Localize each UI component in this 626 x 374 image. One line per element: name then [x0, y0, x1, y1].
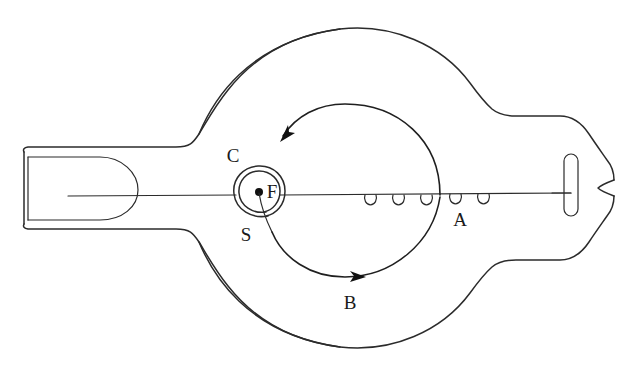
anode-loop-3 [420, 195, 432, 205]
beam-arrow-head-top [280, 125, 295, 142]
anode-loop-2 [393, 195, 405, 205]
bulb-circle-lower [199, 242, 340, 347]
anode-loops [364, 194, 489, 205]
tube-left-inner-wall [28, 157, 138, 220]
end-bulb-tip [598, 180, 614, 196]
axis-line-right [280, 193, 571, 195]
label-s: S [241, 224, 252, 245]
label-f: F [267, 181, 278, 202]
circulating-beam-path [272, 104, 440, 282]
tube-outline-upper [24, 28, 615, 180]
bulb-circle-upper [199, 29, 340, 134]
axis-line-left [68, 195, 236, 196]
anode-loop-5 [477, 194, 489, 204]
label-b: B [344, 292, 357, 313]
anode-loop-4 [449, 194, 461, 204]
label-c: C [227, 145, 240, 166]
beam-arc-lower [272, 197, 440, 277]
label-a: A [453, 209, 467, 230]
spiral-coil [234, 166, 285, 217]
end-electrode [564, 154, 578, 216]
tube-envelope [24, 28, 615, 348]
beam-arc-upper [283, 104, 440, 195]
axis-line-group [68, 193, 571, 196]
diagram-canvas: C F S A B [0, 0, 626, 374]
anode-loop-1 [364, 195, 376, 205]
